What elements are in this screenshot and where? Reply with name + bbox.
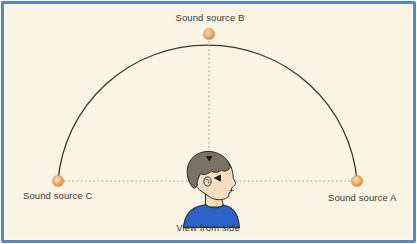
- sound-source-dot-b: [203, 28, 215, 40]
- sound-source-dot-a: [351, 175, 363, 187]
- diagram-canvas: [0, 0, 417, 244]
- caption-view-from-side: View from side: [176, 223, 240, 233]
- sound-source-dot-c: [52, 175, 64, 187]
- mouth: [230, 190, 235, 191]
- ear: [204, 177, 211, 186]
- head-profile-illustration: [184, 151, 240, 227]
- label-sound-source-c: Sound source C: [23, 191, 93, 201]
- figure-sound-localization: Sound source B Sound source C Sound sour…: [0, 0, 417, 244]
- label-sound-source-a: Sound source A: [328, 193, 396, 203]
- label-sound-source-b: Sound source B: [176, 13, 245, 23]
